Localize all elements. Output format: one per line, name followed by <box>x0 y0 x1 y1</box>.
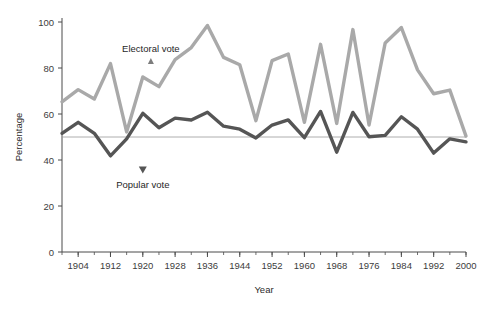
x-axis-title: Year <box>254 284 273 295</box>
x-tick-label: 1904 <box>68 260 89 271</box>
x-tick-label: 1992 <box>423 260 444 271</box>
annotation-pointer-icon <box>148 58 154 64</box>
x-tick-label: 1968 <box>326 260 347 271</box>
y-tick-label: 100 <box>38 17 54 28</box>
y-tick-label: 80 <box>43 63 54 74</box>
line-chart: 020406080100 190419121920192819361944195… <box>0 0 484 312</box>
y-axis-tick-labels: 020406080100 <box>38 17 54 258</box>
y-tick-label: 40 <box>43 155 54 166</box>
series-annotation-label: Popular vote <box>116 179 169 190</box>
x-axis-tick-labels: 1904191219201928193619441952196019681976… <box>68 260 477 271</box>
x-tick-label: 1928 <box>165 260 186 271</box>
y-tick-label: 60 <box>43 109 54 120</box>
annotation-pointer-icon <box>139 167 147 174</box>
x-tick-label: 1944 <box>229 260 250 271</box>
x-axis: 1904191219201928193619441952196019681976… <box>62 252 477 271</box>
chart-container: 020406080100 190419121920192819361944195… <box>0 0 484 312</box>
y-tick-label: 0 <box>49 247 54 258</box>
x-tick-label: 2000 <box>455 260 476 271</box>
series-annotation-label: Electoral vote <box>122 43 180 54</box>
x-tick-label: 1912 <box>100 260 121 271</box>
x-tick-label: 1960 <box>294 260 315 271</box>
y-axis: 020406080100 <box>38 17 62 258</box>
x-tick-label: 1984 <box>391 260 412 271</box>
y-axis-title: Percentage <box>13 113 24 162</box>
x-axis-ticks <box>78 252 466 257</box>
x-tick-label: 1936 <box>197 260 218 271</box>
x-tick-label: 1952 <box>262 260 283 271</box>
y-axis-ticks <box>58 22 62 252</box>
x-tick-label: 1920 <box>132 260 153 271</box>
x-tick-label: 1976 <box>358 260 379 271</box>
y-tick-label: 20 <box>43 201 54 212</box>
